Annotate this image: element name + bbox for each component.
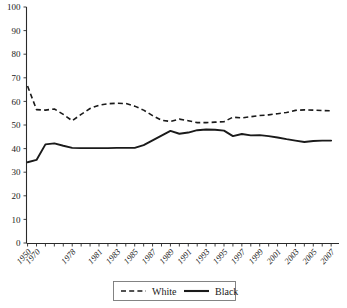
y-tick-label: 20 (12, 191, 22, 201)
y-tick-label: 60 (12, 97, 22, 107)
x-axis-group: 1950197019781981198319851987198919911993… (14, 243, 339, 266)
legend-label-black: Black (215, 286, 238, 297)
y-tick-label: 10 (12, 215, 22, 225)
x-tick-label: 1989 (157, 246, 176, 266)
x-tick-label: 1987 (139, 246, 158, 266)
y-tick-label: 50 (12, 120, 22, 130)
x-tick-labels: 1950197019781981198319851987198919911993… (14, 246, 337, 266)
y-tick-label: 0 (16, 238, 21, 248)
y-tick-label: 80 (12, 49, 22, 59)
x-tick-label: 1978 (59, 246, 78, 266)
chart-legend: White Black (114, 282, 239, 301)
y-axis-group: 1009080706050403020100 (7, 2, 27, 248)
x-tick-label: 2001 (264, 247, 283, 266)
x-tick-label: 1985 (121, 247, 140, 266)
series-line-white (28, 86, 332, 123)
x-tick-label: 1993 (193, 247, 212, 266)
x-tick-label: 1999 (246, 246, 265, 266)
y-tick-label: 40 (12, 144, 22, 154)
chart-canvas: 1009080706050403020100 19501970197819811… (0, 0, 347, 308)
plot-area (28, 86, 332, 162)
x-tick-label: 2007 (318, 246, 337, 266)
x-tick-label: 1997 (229, 246, 248, 266)
y-tick-labels: 1009080706050403020100 (7, 2, 21, 248)
y-tick-label: 90 (12, 26, 22, 36)
y-tick-label: 70 (12, 73, 22, 83)
x-tick-label: 1983 (104, 247, 123, 266)
x-tick-label: 2005 (300, 247, 319, 266)
series-line-black (28, 129, 332, 162)
y-tick-label: 100 (7, 2, 21, 12)
legend-label-white: White (152, 286, 177, 297)
line-chart: 1009080706050403020100 19501970197819811… (0, 0, 347, 308)
x-tick-label: 1981 (86, 247, 105, 266)
x-tick-label: 1995 (211, 247, 230, 266)
x-tick-label: 1991 (175, 247, 194, 266)
y-tick-label: 30 (12, 167, 22, 177)
x-tick-label: 2003 (282, 247, 301, 266)
